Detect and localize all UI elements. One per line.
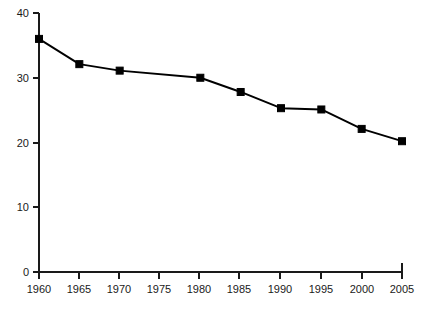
data-point-marker-1985 [237, 88, 244, 95]
x-tick-label-1970: 1970 [107, 283, 131, 295]
data-point-marker-1965 [76, 61, 83, 68]
x-tick-label-1980: 1980 [187, 283, 211, 295]
y-tick-label-10: 10 [17, 201, 29, 213]
x-tick-label-2000: 2000 [350, 283, 374, 295]
x-tick-label-2005: 2005 [390, 283, 414, 295]
data-point-marker-1970 [116, 67, 123, 74]
y-tick-label-20: 20 [17, 137, 29, 149]
data-point-marker-1995 [318, 106, 325, 113]
x-tick-label-1985: 1985 [227, 283, 251, 295]
data-point-marker-1980 [197, 74, 204, 81]
data-point-marker-1990 [278, 105, 285, 112]
x-tick-label-1995: 1995 [309, 283, 333, 295]
chart-container: 40 30 20 10 0 1960 1965 1970 1975 1980 1… [0, 0, 424, 312]
y-tick-label-0: 0 [23, 266, 29, 278]
y-tick-label-30: 30 [17, 72, 29, 84]
x-tick-label-1960: 1960 [27, 283, 51, 295]
data-point-marker-2005 [399, 138, 406, 145]
y-tick-label-40: 40 [17, 7, 29, 19]
x-tick-label-1975: 1975 [147, 283, 171, 295]
x-tick-label-1965: 1965 [67, 283, 91, 295]
plot-background [0, 0, 424, 312]
line-chart-plot: 40 30 20 10 0 1960 1965 1970 1975 1980 1… [0, 0, 424, 312]
data-point-marker-2000 [358, 125, 365, 132]
x-tick-label-1990: 1990 [268, 283, 292, 295]
data-point-marker-1960 [36, 35, 43, 42]
